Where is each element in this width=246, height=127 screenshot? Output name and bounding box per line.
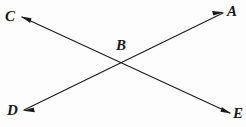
point-label-e: E: [233, 106, 243, 121]
point-label-c: C: [5, 9, 15, 24]
line-d-to-a: [23, 11, 224, 112]
point-label-d: D: [7, 103, 18, 118]
point-label-b: B: [116, 38, 126, 53]
line-ce-segment: [22, 17, 230, 113]
line-c-to-e: [21, 17, 231, 114]
geometry-figure: C A B D E: [0, 0, 246, 127]
point-label-a: A: [227, 4, 237, 19]
figure-canvas: [0, 0, 246, 127]
arrowhead-e-icon: [221, 107, 232, 114]
arrowhead-c-icon: [21, 17, 32, 24]
